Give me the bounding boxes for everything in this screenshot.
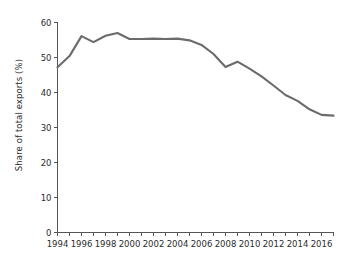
x-tick-label: 1996 (71, 239, 93, 249)
x-tick-label: 2004 (167, 239, 189, 249)
x-tick-label: 2008 (215, 239, 237, 249)
x-axis-ticks: 1994199619982000200220042006200820102012… (47, 233, 334, 249)
data-series-line (58, 33, 334, 116)
chart-plot-area: 0102030405060 19941996199820002002200420… (0, 0, 347, 262)
y-tick-label: 10 (41, 193, 52, 203)
x-tick-label: 1998 (95, 239, 117, 249)
y-tick-label: 50 (41, 53, 52, 63)
x-tick-label: 2006 (191, 239, 213, 249)
x-tick-label: 2012 (263, 239, 285, 249)
x-tick-label: 2014 (287, 239, 309, 249)
y-axis-ticks: 0102030405060 (41, 18, 58, 238)
x-tick-label: 2010 (239, 239, 261, 249)
y-tick-label: 30 (41, 123, 52, 133)
x-tick-label: 2000 (119, 239, 141, 249)
chart-container: Share of total exports (%) 0102030405060… (0, 0, 347, 262)
y-tick-label: 0 (46, 228, 51, 238)
y-tick-label: 40 (41, 88, 52, 98)
x-tick-label: 1994 (47, 239, 69, 249)
x-tick-label: 2016 (311, 239, 333, 249)
x-tick-label: 2002 (143, 239, 165, 249)
y-tick-label: 60 (41, 18, 52, 28)
y-tick-label: 20 (41, 158, 52, 168)
